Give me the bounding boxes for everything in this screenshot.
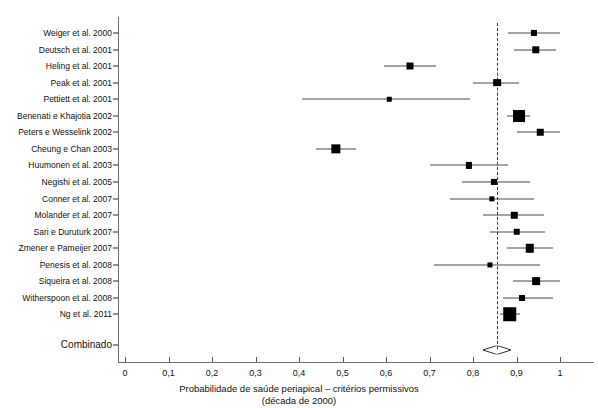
x-axis-tick-label: 0,2 <box>206 369 219 378</box>
study-estimate-marker <box>511 212 517 218</box>
x-axis-tick <box>473 357 474 362</box>
study-estimate-marker <box>513 228 519 234</box>
y-axis-tick <box>113 215 118 216</box>
x-axis-tick <box>517 357 518 362</box>
study-label: Molander et al. 2007 <box>35 211 113 220</box>
y-axis-tick <box>113 181 118 182</box>
study-estimate-marker <box>331 144 340 153</box>
y-axis-tick <box>113 248 118 249</box>
summary-label: Combinado <box>61 340 112 350</box>
study-estimate-marker <box>387 97 391 101</box>
y-axis-tick <box>113 281 118 282</box>
study-label: Siqueira et al. 2008 <box>39 277 112 286</box>
x-axis-tick-label: 1 <box>557 369 562 378</box>
study-estimate-marker <box>487 262 492 267</box>
y-axis-tick <box>113 99 118 100</box>
study-label: Zmener e Pameijer 2007 <box>18 244 112 253</box>
study-estimate-marker <box>493 79 501 87</box>
x-axis-label: Probabilidade de saúde periapical – crit… <box>0 383 598 395</box>
x-axis-tick <box>386 357 387 362</box>
study-label: Cheung e Chan 2003 <box>31 145 112 154</box>
study-label: Benenati e Khajotia 2002 <box>17 112 112 121</box>
study-label: Negishi et al. 2005 <box>42 178 112 187</box>
study-label: Huumonen et al. 2003 <box>28 161 112 170</box>
study-label: Penesis et al. 2008 <box>40 260 112 269</box>
reference-line <box>497 23 498 349</box>
y-axis-tick <box>113 165 118 166</box>
study-label: Ng et al. 2011 <box>60 310 112 319</box>
x-axis-tick-label: 0,8 <box>467 369 480 378</box>
x-axis-tick <box>560 357 561 362</box>
study-estimate-marker <box>537 129 543 135</box>
y-axis-tick <box>113 132 118 133</box>
x-axis-tick-label: 0,6 <box>380 369 393 378</box>
x-axis-tick-label: 0,1 <box>162 369 175 378</box>
x-axis-tick <box>169 357 170 362</box>
study-label: Sari e Duruturk 2007 <box>34 227 112 236</box>
y-axis-tick <box>113 231 118 232</box>
x-axis-tick <box>212 357 213 362</box>
study-label: Deutsch et al. 2001 <box>39 45 112 54</box>
x-axis-tick <box>125 357 126 362</box>
x-axis-tick-label: 0,4 <box>293 369 306 378</box>
study-estimate-marker <box>491 179 497 185</box>
confidence-interval-line <box>503 297 553 298</box>
y-axis-tick <box>113 198 118 199</box>
study-estimate-marker <box>513 110 525 122</box>
x-axis-spine <box>118 362 594 363</box>
study-label: Peters e Wesselink 2002 <box>18 128 112 137</box>
forest-plot: Weiger et al. 2000Deutsch et al. 2001Hel… <box>0 0 598 408</box>
y-axis-tick <box>113 297 118 298</box>
x-axis-tick-label: 0,7 <box>423 369 436 378</box>
study-estimate-marker <box>531 30 537 36</box>
study-label: Peak et al. 2001 <box>51 78 112 87</box>
y-axis-spine <box>118 17 119 362</box>
study-label: Conner et al. 2007 <box>42 194 112 203</box>
summary-diamond <box>483 341 511 350</box>
x-axis-tick-label: 0,9 <box>510 369 523 378</box>
study-label: Heling et al. 2001 <box>46 62 112 71</box>
x-axis-tick <box>343 357 344 362</box>
study-estimate-marker <box>532 277 540 285</box>
study-label: Pettiett et al. 2001 <box>43 95 112 104</box>
y-axis-tick <box>113 66 118 67</box>
x-axis-tick-label: 0 <box>122 369 127 378</box>
y-axis-tick <box>113 49 118 50</box>
study-estimate-marker <box>466 162 472 168</box>
study-estimate-marker <box>532 46 539 53</box>
y-axis-tick <box>113 345 118 346</box>
x-axis-tick <box>256 357 257 362</box>
y-axis-tick <box>113 33 118 34</box>
study-label: Weiger et al. 2000 <box>43 29 112 38</box>
x-axis-tick <box>299 357 300 362</box>
x-axis-tick-label: 0,3 <box>249 369 262 378</box>
x-axis-tick-label: 0,5 <box>336 369 349 378</box>
x-axis-tick <box>430 357 431 362</box>
x-axis-label-sub: (década de 2000) <box>0 395 598 407</box>
y-axis-tick <box>113 314 118 315</box>
study-estimate-marker <box>503 308 517 322</box>
study-label-column: Weiger et al. 2000Deutsch et al. 2001Hel… <box>0 0 112 408</box>
y-axis-tick <box>113 82 118 83</box>
y-axis-tick <box>113 115 118 116</box>
study-estimate-marker <box>489 196 494 201</box>
study-estimate-marker <box>525 244 533 252</box>
study-estimate-marker <box>519 295 525 301</box>
y-axis-tick <box>113 264 118 265</box>
study-label: Witherspoon et al. 2008 <box>22 294 112 303</box>
confidence-interval-line <box>302 99 469 100</box>
y-axis-tick <box>113 148 118 149</box>
study-estimate-marker <box>406 63 413 70</box>
